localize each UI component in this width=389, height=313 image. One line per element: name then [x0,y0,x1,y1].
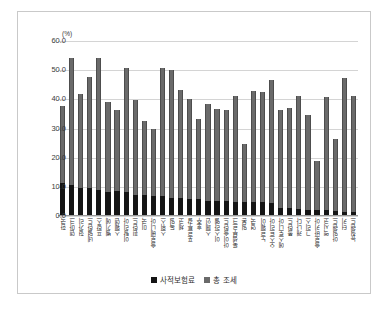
bar-segment-private-insurance [178,198,183,216]
y-tick-label: 20.0 [26,154,66,162]
bar-segment-private-insurance [224,201,229,216]
x-tick-label-wrap: 터키 [340,218,348,270]
bar-segment-private-insurance [214,201,219,216]
x-tick-label-wrap: 포르투갈 [186,218,194,270]
bar-segment-total-tax [224,110,229,216]
bar-segment-total-tax [324,97,329,216]
bar-segment-total-tax [278,110,283,216]
x-tick-label-wrap: 헝가리 [77,218,85,270]
x-tick-label: 이탈리아 [123,218,129,242]
bar-segment-total-tax [305,115,310,216]
x-tick-label-wrap: 슬로베니아 [149,218,157,270]
x-tick-label-wrap: 영국 [249,218,257,270]
x-tick-label: 아일랜드 [332,218,338,242]
bar-segment-private-insurance [96,190,101,216]
bar-segment-private-insurance [69,185,74,216]
x-tick-label-wrap: 독일 [168,218,176,270]
x-tick-label-wrap: 그리스 [304,218,312,270]
x-axis-labels: 한국덴마크헝가리네덜란드프랑스벨기에스웨덴이탈리아핀란드미국슬로베니아스위스독일… [58,218,358,270]
x-tick-label: 뉴질랜드 [350,218,356,242]
x-tick-label-wrap: 아이슬란드 [222,218,230,270]
bar-segment-private-insurance [242,202,247,216]
bar-segment-private-insurance [133,195,138,216]
bar-segment-private-insurance [196,199,201,216]
x-tick-label-wrap: 에스토니아 [277,218,285,270]
x-tick-label: 스페인 [205,218,211,236]
bar-segment-total-tax [296,96,301,216]
bar-segment-private-insurance [142,195,147,216]
x-tick-label: 체코 [178,218,184,230]
y-tick-label: 50.0 [26,66,66,74]
legend-swatch-icon [204,277,210,283]
x-tick-label: 덴마크 [69,218,75,236]
x-tick-label-wrap: 프랑스 [95,218,103,270]
x-tick-label-wrap: 룩셈부르크 [231,218,239,270]
x-tick-label: 포르투갈 [187,218,193,242]
chart-legend: 사적보험료총 조세 [18,274,370,285]
bar-segment-private-insurance [205,201,210,216]
x-tick-label-wrap: 핀란드 [131,218,139,270]
x-tick-label: 멕시코 [323,218,329,236]
x-tick-label: 오스트리아 [269,218,275,248]
legend-label: 총 조세 [213,274,236,285]
bar-segment-total-tax [205,104,210,216]
x-tick-label-wrap: 미국 [140,218,148,270]
x-tick-label-wrap: 이스라엘 [213,218,221,270]
x-tick-label-wrap: 벨기에 [104,218,112,270]
x-tick-label: 그리스 [305,218,311,236]
bar-segment-total-tax [160,68,165,216]
x-tick-label: 터키 [341,218,347,230]
x-tick-label-wrap: 호주 [195,218,203,270]
bar-segment-private-insurance [78,188,83,216]
x-tick-label: 독일 [169,218,175,230]
bar-segment-private-insurance [87,188,92,216]
x-tick-label: 호주 [196,218,202,230]
bar-segment-total-tax [351,96,356,216]
bar-segment-total-tax [169,70,174,216]
bar-segment-private-insurance [151,196,156,216]
x-tick-label-wrap: 폴란드 [286,218,294,270]
x-tick-label: 일본 [241,218,247,230]
x-tick-label-wrap: 한국 [59,218,67,270]
x-tick-label-wrap: 이탈리아 [122,218,130,270]
x-tick-label-wrap: 멕시코 [322,218,330,270]
bar-segment-total-tax [260,92,265,216]
bar-series-layer [58,41,358,216]
bar-segment-private-insurance [169,198,174,216]
bar-segment-private-insurance [187,199,192,216]
bar-segment-total-tax [178,90,183,216]
bar-segment-total-tax [333,139,338,216]
y-tick-label: 30.0 [26,125,66,133]
bar-segment-private-insurance [105,192,110,217]
x-tick-label-wrap: 네덜란드 [86,218,94,270]
x-tick-label: 이스라엘 [214,218,220,242]
y-tick-label: 60.0 [26,37,66,45]
bar-segment-total-tax [269,80,274,216]
x-axis-line [58,215,358,216]
bar-segment-private-insurance [260,202,265,216]
x-tick-label-wrap: 스페인 [204,218,212,270]
x-tick-label: 슬로베니아 [150,218,156,248]
x-tick-label: 슬로바키아 [314,218,320,248]
x-tick-label-wrap: 덴마크 [68,218,76,270]
x-tick-label-wrap: 오스트리아 [268,218,276,270]
x-tick-label: 헝가리 [78,218,84,236]
bar-segment-private-insurance [114,191,119,216]
x-tick-label: 캐나다 [296,218,302,236]
x-tick-label-wrap: 스위스 [159,218,167,270]
x-tick-label: 핀란드 [132,218,138,236]
x-tick-label: 네덜란드 [87,218,93,242]
x-tick-label: 영국 [250,218,256,230]
bar-segment-total-tax [251,91,256,216]
x-tick-label-wrap: 스웨덴 [113,218,121,270]
legend-item-총 조세[interactable]: 총 조세 [204,274,236,285]
gridline-0.0 [58,216,358,217]
x-tick-label-wrap: 체코 [177,218,185,270]
legend-item-사적보험료[interactable]: 사적보험료 [151,274,195,285]
x-tick-label: 룩셈부르크 [232,218,238,248]
x-tick-label-wrap: 뉴질랜드 [349,218,357,270]
legend-label: 사적보험료 [160,274,195,285]
chart-frame: (%) 0.010.020.030.040.050.060.0 한국덴마크헝가리… [17,11,371,294]
bar-segment-private-insurance [124,192,129,216]
plot-area [58,41,358,216]
